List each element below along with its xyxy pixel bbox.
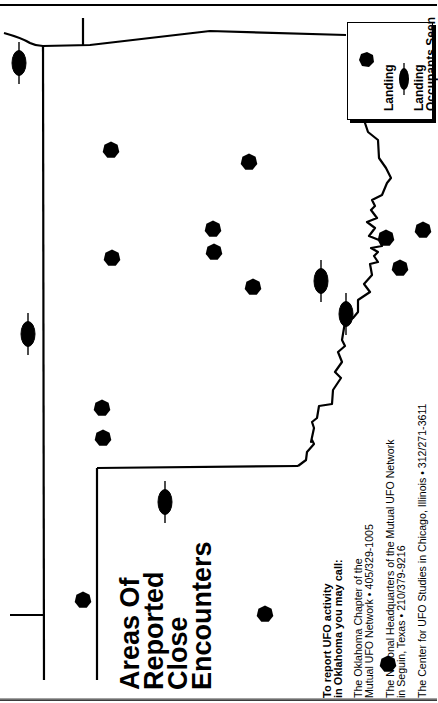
occupants-marker-icon	[158, 481, 172, 523]
landing-marker-icon	[245, 279, 262, 295]
contact-cufos: The Center for UFO Studies in Chicago, I…	[417, 404, 428, 698]
landing-marker-icon	[205, 221, 222, 237]
landing-marker-icon	[257, 606, 274, 622]
contact-line: Mutual UFO Network • 405/329-1005	[364, 404, 375, 698]
occupants-marker-icon	[314, 260, 328, 302]
map-title: Areas Of Reported Close Encounters	[118, 541, 214, 690]
landing-marker-icon	[206, 244, 223, 260]
contact-line: in Seguin, Texas • 210/379-9216	[396, 404, 407, 698]
occupant-markers	[12, 42, 353, 523]
report-info-header: To report UFO activity in Oklahoma you m…	[322, 404, 344, 698]
legend-label-occupants: Landing Occupants Seen	[413, 17, 437, 111]
landing-marker-icon	[241, 154, 258, 170]
contact-oklahoma-chapter: The Oklahoma Chapter of the Mutual UFO N…	[353, 404, 375, 698]
occupants-marker-icon	[339, 293, 353, 335]
page-bottom-rule	[0, 698, 437, 701]
map-legend: Landing Landing Occupants Seen	[347, 22, 433, 120]
contact-line: The Center for UFO Studies in Chicago, I…	[417, 404, 428, 698]
legend-label-landing: Landing	[383, 64, 395, 111]
west-border	[43, 46, 44, 680]
landing-marker-icon	[75, 592, 92, 608]
landing-marker-icon	[95, 430, 112, 446]
contact-national-hq: The National Headquarters of the Mutual …	[385, 404, 407, 698]
occupants-marker-icon	[21, 313, 35, 355]
panhandle-top	[97, 466, 298, 468]
report-info: To report UFO activity in Oklahoma you m…	[322, 404, 438, 698]
legend-landing-text: Landing	[383, 64, 395, 111]
landing-marker-icon	[104, 250, 121, 266]
landing-marker-icon	[94, 400, 111, 416]
occupants-marker-icon	[12, 42, 26, 84]
north-border	[4, 31, 346, 46]
header-line-2: in Oklahoma you may call:	[333, 404, 344, 698]
landing-marker-icon	[103, 142, 120, 158]
landing-marker-icon	[392, 260, 409, 276]
title-line-4: Encounters	[190, 541, 214, 690]
landing-legend-icon	[359, 52, 374, 67]
legend-occupants-line2: Occupants Seen	[425, 17, 437, 111]
landing-marker-icon	[415, 222, 432, 238]
